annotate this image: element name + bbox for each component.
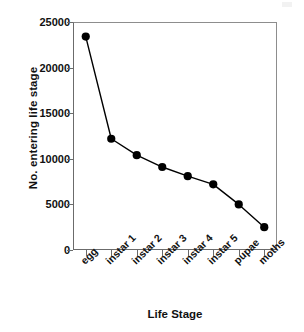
y-tick-mark [67, 250, 73, 251]
y-tick-mark [67, 159, 73, 160]
x-tick-mark [188, 250, 189, 256]
x-tick-mark [213, 250, 214, 256]
x-axis-tick-labels: egginstar 1instar 2instar 3instar 4insta… [0, 0, 304, 332]
y-tick-mark [67, 68, 73, 69]
x-tick-mark [239, 250, 240, 256]
x-tick-mark [137, 250, 138, 256]
x-tick-mark [162, 250, 163, 256]
y-tick-mark [67, 22, 73, 23]
y-tick-mark [67, 204, 73, 205]
x-tick-mark [111, 250, 112, 256]
x-tick-mark [264, 250, 265, 256]
x-tick-label: moths [256, 236, 287, 267]
x-axis-title: Life Stage [73, 308, 277, 320]
x-tick-label: egg [78, 245, 100, 267]
x-tick-mark [86, 250, 87, 256]
chart-container: No. entering life stage 0500010000150002… [0, 0, 304, 332]
y-tick-mark [67, 113, 73, 114]
